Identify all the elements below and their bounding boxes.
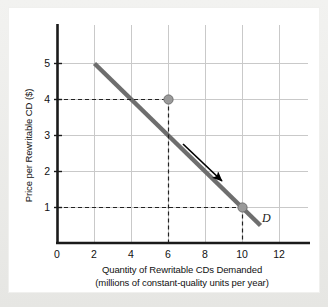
x-tick-10: 10 — [234, 248, 250, 260]
chart-figure: 5 4 3 2 1 0 2 4 6 8 10 12 D Price per Re… — [0, 0, 328, 307]
demand-curve-plot — [0, 0, 328, 307]
x-tick-4: 4 — [123, 248, 139, 260]
demand-curve-label: D — [262, 211, 271, 226]
x-tick-6: 6 — [160, 248, 176, 260]
y-tick-2: 2 — [36, 165, 50, 177]
data-point-6-3 — [164, 95, 173, 104]
vertical-gridlines — [95, 25, 280, 243]
x-tick-12: 12 — [271, 248, 287, 260]
x-axis-subtitle: (millions of constant-quality units per … — [47, 277, 317, 288]
demand-curve — [95, 64, 261, 226]
y-tick-3: 3 — [36, 129, 50, 141]
y-axis-title: Price per Rewritable CD ($) — [23, 66, 34, 226]
x-tick-8: 8 — [197, 248, 213, 260]
movement-along-curve-arrow — [183, 144, 222, 181]
y-tick-5: 5 — [36, 57, 50, 69]
y-tick-4: 4 — [36, 93, 50, 105]
data-point-10-1 — [238, 203, 247, 212]
y-tick-1: 1 — [36, 201, 50, 213]
x-axis-title: Quantity of Rewritable CDs Demanded — [57, 264, 307, 275]
x-tick-2: 2 — [86, 248, 102, 260]
x-tick-0: 0 — [49, 248, 65, 260]
